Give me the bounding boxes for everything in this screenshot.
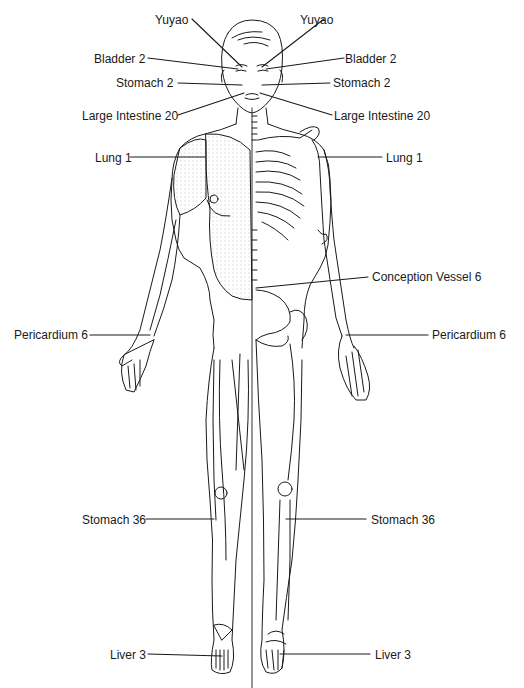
label-bladder-2-left: Bladder 2 xyxy=(94,52,145,66)
label-large-intestine-20-right: Large Intestine 20 xyxy=(334,109,430,123)
label-stomach-36-right: Stomach 36 xyxy=(371,513,435,527)
label-large-intestine-20-left: Large Intestine 20 xyxy=(82,109,178,123)
label-liver-3-right: Liver 3 xyxy=(375,648,411,662)
label-lung-1-right: Lung 1 xyxy=(386,151,423,165)
torso xyxy=(171,108,331,688)
label-stomach-2-left: Stomach 2 xyxy=(116,76,173,90)
label-pericardium-6-right: Pericardium 6 xyxy=(432,328,506,342)
right-leg xyxy=(256,340,302,673)
anatomy-diagram xyxy=(0,0,524,688)
label-stomach-2-right: Stomach 2 xyxy=(333,76,390,90)
body-figure xyxy=(0,0,524,688)
left-leg xyxy=(206,348,249,674)
label-stomach-36-left: Stomach 36 xyxy=(82,513,146,527)
right-arm xyxy=(312,140,370,400)
label-bladder-2-right: Bladder 2 xyxy=(345,52,396,66)
label-yuyao-left: Yuyao xyxy=(155,13,188,27)
label-lung-1-left: Lung 1 xyxy=(95,151,132,165)
label-yuyao-right: Yuyao xyxy=(300,13,333,27)
label-pericardium-6-left: Pericardium 6 xyxy=(14,328,88,342)
label-conception-vessel-6: Conception Vessel 6 xyxy=(372,270,481,284)
label-liver-3-left: Liver 3 xyxy=(110,648,146,662)
